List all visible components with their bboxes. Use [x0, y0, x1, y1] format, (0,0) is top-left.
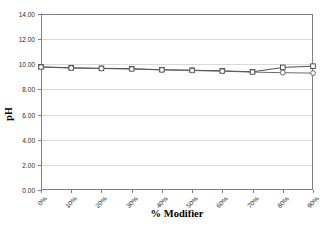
x-tick-mark: [71, 190, 72, 193]
y-tick-mark: [38, 140, 41, 141]
y-tick-label: 12.00: [0, 36, 35, 43]
chart-container: pH 0.002.004.006.008.0010.0012.0014.00 0…: [0, 0, 331, 228]
y-tick-mark: [38, 39, 41, 40]
gridline: [42, 64, 312, 65]
y-tick-mark: [38, 64, 41, 65]
y-tick-label: 4.00: [0, 136, 35, 143]
x-tick-mark: [101, 190, 102, 193]
y-tick-label: 8.00: [0, 86, 35, 93]
y-tick-mark: [38, 115, 41, 116]
y-tick-label: 14.00: [0, 11, 35, 18]
gridline: [42, 89, 312, 90]
x-tick-mark: [222, 190, 223, 193]
x-tick-mark: [192, 190, 193, 193]
gridline: [42, 115, 312, 116]
y-tick-label: 2.00: [0, 161, 35, 168]
y-tick-label: 6.00: [0, 111, 35, 118]
x-tick-mark: [283, 190, 284, 193]
gridline: [42, 140, 312, 141]
x-tick-mark: [253, 190, 254, 193]
x-tick-mark: [132, 190, 133, 193]
plot-area: [41, 14, 313, 190]
y-tick-mark: [38, 14, 41, 15]
y-tick-mark: [38, 165, 41, 166]
y-tick-label: 0.00: [0, 187, 35, 194]
gridline: [42, 165, 312, 166]
y-tick-mark: [38, 89, 41, 90]
x-tick-mark: [313, 190, 314, 193]
x-tick-mark: [41, 190, 42, 193]
x-axis-title: % Modifier: [41, 208, 313, 219]
y-tick-label: 10.00: [0, 61, 35, 68]
gridline: [42, 39, 312, 40]
x-tick-mark: [162, 190, 163, 193]
